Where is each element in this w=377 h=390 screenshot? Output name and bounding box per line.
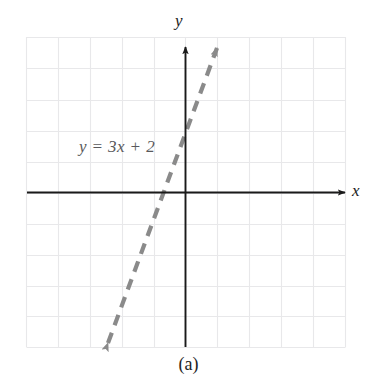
line-y-equals-3x-plus-2 — [108, 48, 217, 343]
figure-caption: (a) — [0, 355, 377, 373]
x-axis-label: x — [352, 182, 360, 199]
y-axis-label: y — [175, 12, 183, 29]
figure-container: y x y = 3x + 2 (a) — [0, 0, 377, 390]
coordinate-plane-chart — [0, 0, 377, 390]
equation-annotation: y = 3x + 2 — [79, 138, 155, 155]
